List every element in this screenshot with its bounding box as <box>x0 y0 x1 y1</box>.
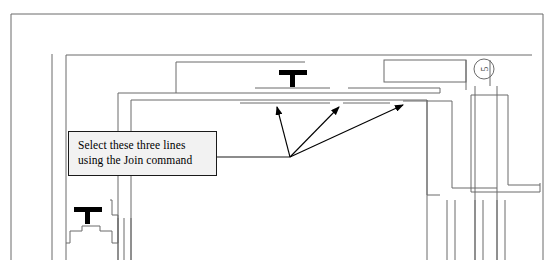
detail-bubble-label: 5 <box>479 67 490 72</box>
arrow-center <box>290 107 339 157</box>
detail-bubble: 5 <box>474 59 494 79</box>
room-block-right <box>471 95 540 192</box>
callout-text-line-2: using the Join command <box>78 153 216 168</box>
mullions-right <box>447 200 505 260</box>
floor-plan-drawing: 5 <box>0 0 552 260</box>
wall-lower-jog <box>110 200 118 243</box>
column-symbol-lower <box>74 207 102 224</box>
callout-box: Select these three lines using the Join … <box>68 131 217 176</box>
room-rect-top-right <box>384 60 466 82</box>
mullions-left <box>118 218 131 260</box>
wall-right-group <box>427 60 497 260</box>
target-lines-group <box>240 101 452 103</box>
arrow-left <box>277 107 290 157</box>
wall-upper-stubs <box>255 88 440 93</box>
callout-text-line-1: Select these three lines <box>78 138 216 153</box>
arrow-right <box>290 105 403 157</box>
column-symbol-upper <box>279 70 307 87</box>
annotation-arrows <box>277 105 403 157</box>
wall-lower-niche <box>66 226 118 243</box>
wall-corridor-upper <box>118 93 440 260</box>
wall-corridor-inner <box>131 100 427 260</box>
screenshot-root: 5 Select these three lines using the Joi… <box>0 0 552 260</box>
